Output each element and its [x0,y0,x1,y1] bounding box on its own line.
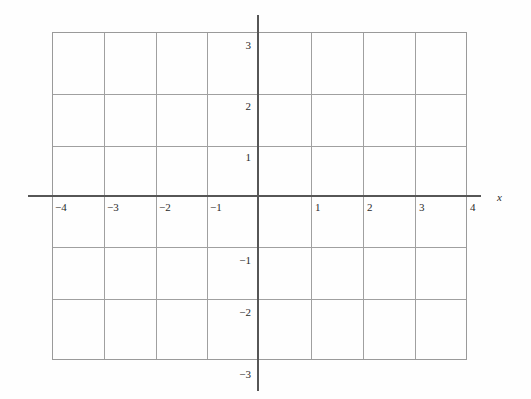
y-tick-label-neg3: −3 [227,369,251,380]
x-axis-label: x [497,192,502,203]
y-axis-line [257,15,259,391]
y-tick-label-neg1: −1 [227,255,251,266]
gridline-horizontal-y-pos3 [52,32,467,33]
gridline-horizontal-y-neg1 [52,247,467,248]
x-tick-label-neg2: −2 [159,202,171,213]
gridline-horizontal-y-neg3 [52,359,467,360]
x-tick-label-pos4: 4 [470,202,476,213]
coordinate-grid-figure: x −4 −3 −2 −1 1 2 3 4 3 2 1 −1 −2 −3 [0,0,531,399]
y-tick-label-neg2: −2 [227,307,251,318]
y-tick-label-pos2: 2 [227,101,251,112]
gridline-horizontal-y-neg2 [52,299,467,300]
y-tick-label-pos3: 3 [227,40,251,51]
gridline-horizontal-y-pos2 [52,94,467,95]
x-tick-label-neg3: −3 [107,202,119,213]
y-tick-label-pos1: 1 [227,152,251,163]
x-tick-label-pos1: 1 [315,202,321,213]
x-tick-label-pos2: 2 [367,202,373,213]
gridline-horizontal-y-pos1 [52,146,467,147]
x-axis-line [28,195,481,197]
x-tick-label-neg4: −4 [55,202,67,213]
x-tick-label-neg1: −1 [210,202,222,213]
x-tick-label-pos3: 3 [419,202,425,213]
